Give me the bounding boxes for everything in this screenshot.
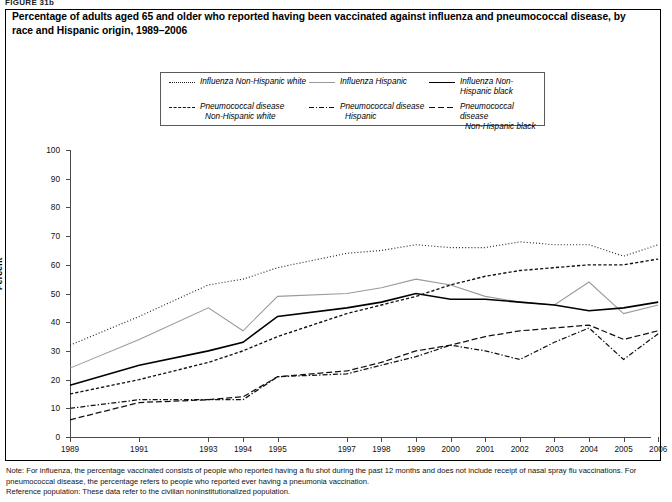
x-axis-tick-label: 1997 [332,445,362,454]
x-axis-tick-label: 2001 [470,445,500,454]
y-axis-tick [66,179,71,180]
x-axis-tick [624,437,625,442]
x-axis-tick-label: 1999 [401,445,431,454]
x-axis-tick [70,437,71,442]
x-axis-tick [139,437,140,442]
series-line-5 [70,325,658,420]
y-axis-tick [66,322,71,323]
series-line-2 [70,294,658,386]
x-axis-tick-label: 1989 [55,445,85,454]
x-axis-tick-label: 2002 [505,445,535,454]
y-axis-tick [66,351,71,352]
y-axis-tick [66,408,71,409]
footnote-note: Note: For influenza, the percentage vacc… [6,466,656,487]
x-axis-tick-label: 1998 [366,445,396,454]
x-axis-tick [208,437,209,442]
footnote-reference-population: Reference population: These data refer t… [6,487,656,498]
x-axis-tick [416,437,417,442]
x-axis-tick-label: 2006 [643,445,672,454]
y-axis-tick [66,207,71,208]
x-axis-tick-label: 1993 [193,445,223,454]
series-line-1 [70,279,658,368]
series-line-4 [70,328,658,408]
x-axis-tick [278,437,279,442]
x-axis-tick [243,437,244,442]
x-axis-tick [451,437,452,442]
x-axis-tick [485,437,486,442]
x-axis-tick-label: 1995 [263,445,293,454]
chart-footnotes: Note: For influenza, the percentage vacc… [6,466,656,498]
series-line-0 [70,242,658,345]
y-axis-tick [66,380,71,381]
x-axis-tick-label: 2005 [609,445,639,454]
x-axis-tick [589,437,590,442]
x-axis-tick [554,437,555,442]
x-axis-tick [381,437,382,442]
x-axis-tick [520,437,521,442]
y-axis-tick [66,265,71,266]
x-axis-tick [658,437,659,442]
y-axis-tick [66,236,71,237]
y-axis-tick [66,150,71,151]
x-axis-tick-label: 1994 [228,445,258,454]
x-axis-tick-label: 2004 [574,445,604,454]
x-axis-tick-label: 2000 [436,445,466,454]
x-axis-tick [347,437,348,442]
x-axis-tick-label: 1991 [124,445,154,454]
x-axis-tick-label: 2003 [539,445,569,454]
y-axis-tick [66,294,71,295]
